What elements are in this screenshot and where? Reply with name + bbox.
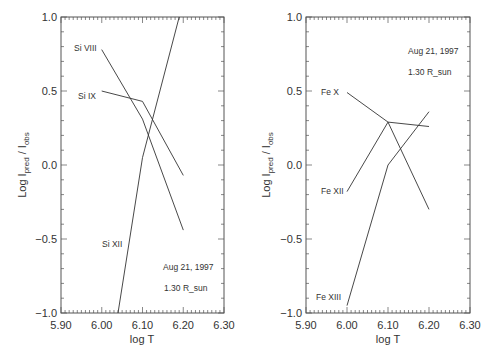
left-date-annotation: Aug 21, 1997	[163, 262, 214, 272]
left-radius-annotation: 1.30 R_sun	[164, 283, 208, 293]
series-label-si-viii: Si VIII	[74, 43, 97, 53]
y-tick-label: 0.5	[287, 85, 302, 97]
y-tick-label: 1.0	[42, 11, 57, 23]
y-tick-label: 0.0	[42, 159, 57, 171]
y-tick-label: 1.0	[287, 11, 302, 23]
left-xlabel: log T	[130, 333, 155, 345]
figure: 5.906.006.106.206.30−1.0−0.50.00.51.0 Lo…	[0, 0, 493, 356]
right-panel: 5.906.006.106.206.30−1.0−0.50.00.51.0 Lo…	[260, 11, 481, 345]
x-tick-label: 6.00	[91, 319, 112, 331]
x-tick-label: 6.20	[418, 319, 439, 331]
series-label-si-ix: Si IX	[78, 91, 96, 101]
x-tick-label: 6.30	[459, 319, 480, 331]
x-tick-label: 5.90	[50, 319, 71, 331]
x-tick-label: 6.20	[173, 319, 194, 331]
y-tick-label: 0.0	[287, 159, 302, 171]
right-xlabel: log T	[376, 333, 401, 345]
right-axis-ticks: 5.906.006.106.206.30−1.0−0.50.00.51.0	[280, 11, 480, 331]
x-tick-label: 6.10	[132, 319, 153, 331]
right-data-lines	[347, 93, 429, 306]
left-panel: 5.906.006.106.206.30−1.0−0.50.00.51.0 Lo…	[16, 11, 235, 345]
right-ylabel: Log Ipred / Iobs	[260, 132, 275, 198]
x-tick-label: 6.30	[213, 319, 234, 331]
series-label-fe-xiii: Fe XIII	[316, 292, 341, 302]
y-tick-label: −0.5	[280, 233, 302, 245]
series-label-fe-xii: Fe XII	[321, 186, 344, 196]
y-tick-label: −1.0	[35, 307, 57, 319]
right-date-annotation: Aug 21, 1997	[408, 46, 459, 56]
y-tick-label: 0.5	[42, 85, 57, 97]
y-tick-label: −0.5	[35, 233, 57, 245]
series-line-si-ix	[102, 91, 184, 175]
x-tick-label: 6.00	[336, 319, 357, 331]
right-radius-annotation: 1.30 R_sun	[408, 67, 452, 77]
y-tick-label: −1.0	[280, 307, 302, 319]
series-line-si-viii	[102, 50, 184, 231]
series-line-fe-xiii	[347, 112, 429, 306]
x-tick-label: 6.10	[377, 319, 398, 331]
series-label-si-xii: Si XII	[102, 239, 122, 249]
left-ylabel: Log Ipred / Iobs	[16, 132, 31, 198]
series-label-fe-x: Fe X	[321, 87, 339, 97]
x-tick-label: 5.90	[295, 319, 316, 331]
